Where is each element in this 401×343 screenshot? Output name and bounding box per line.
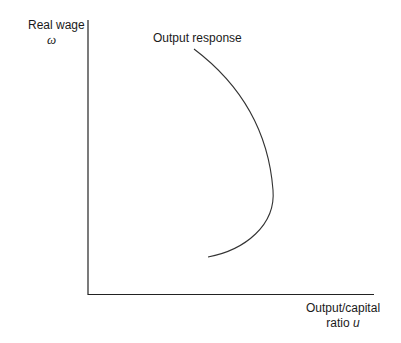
x-axis-label-text: ratio	[326, 316, 353, 330]
x-axis-label-line2: ratio u	[306, 316, 380, 331]
y-axis-label: Real wage	[28, 18, 85, 32]
y-axis-symbol: ω	[47, 33, 56, 47]
output-response-curve	[194, 49, 273, 257]
curve-label: Output response	[153, 31, 242, 45]
x-axis-label: Output/capital ratio u	[306, 301, 380, 331]
x-axis-symbol: u	[353, 316, 360, 330]
x-axis-label-line1: Output/capital	[306, 301, 380, 316]
diagram-canvas	[0, 0, 401, 343]
